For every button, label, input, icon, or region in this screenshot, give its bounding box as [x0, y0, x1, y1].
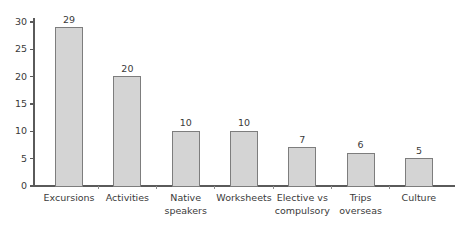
y-axis-tick-label: 30	[15, 16, 27, 27]
bar	[289, 148, 316, 186]
bar	[172, 131, 199, 186]
x-axis-category-label: Activities	[106, 192, 149, 203]
x-axis-category-label: speakers	[164, 205, 207, 216]
chart-canvas: 051015202530 29201010765 ExcursionsActiv…	[0, 0, 464, 231]
bar-value-label: 10	[180, 117, 192, 128]
x-axis-category-label: Excursions	[44, 192, 95, 203]
x-axis-category-label: Elective vs	[277, 192, 328, 203]
bar	[56, 28, 83, 187]
x-axis-category-label: compulsory	[275, 205, 331, 216]
y-axis-tick-label: 10	[15, 125, 27, 136]
bar	[114, 77, 141, 186]
y-axis-tick-label: 5	[21, 153, 27, 164]
bar-value-label: 6	[358, 139, 364, 150]
bar	[405, 159, 432, 186]
bar	[231, 131, 258, 186]
bar-value-label: 29	[63, 14, 75, 25]
bar-value-label: 10	[238, 117, 250, 128]
x-axis-category-label: overseas	[339, 205, 382, 216]
y-axis-tick-label: 20	[15, 71, 27, 82]
bar-value-label: 7	[299, 134, 305, 145]
bar-chart: 051015202530 29201010765 ExcursionsActiv…	[0, 0, 464, 231]
y-axis-tick-label: 0	[21, 180, 27, 191]
y-axis-tick-label: 15	[15, 98, 27, 109]
x-axis-category-label: Trips	[349, 192, 372, 203]
bar	[347, 153, 374, 186]
x-axis-category-label: Culture	[402, 192, 437, 203]
x-axis-category-label: Native	[170, 192, 201, 203]
bar-value-label: 5	[416, 145, 422, 156]
y-axis-tick-label: 25	[15, 43, 27, 54]
bar-value-label: 20	[121, 63, 133, 74]
x-axis-category-label: Worksheets	[216, 192, 271, 203]
